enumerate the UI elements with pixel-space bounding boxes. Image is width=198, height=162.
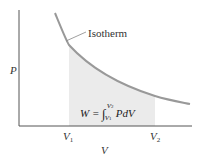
v1-sub: 1 — [70, 136, 74, 144]
isotherm-leader-line — [66, 32, 86, 41]
isotherm-label: Isotherm — [88, 28, 127, 39]
x-tick-v1: V1 — [63, 131, 73, 144]
v2-base: V — [150, 130, 157, 142]
pv-diagram — [0, 0, 198, 162]
x-tick-v2: V2 — [150, 131, 160, 144]
lower-limit: V1 — [105, 114, 112, 122]
upper-limit: V2 — [107, 102, 114, 110]
integral-limits: V2V1 — [106, 107, 116, 121]
work-integral-formula: W = ∫V2V1PdV — [80, 105, 135, 121]
formula-lhs: W = — [80, 107, 99, 119]
integrand: PdV — [116, 107, 135, 119]
v2-sub: 2 — [157, 136, 161, 144]
y-axis-label: P — [10, 65, 17, 76]
x-axis-label: V — [101, 145, 108, 156]
v1-base: V — [63, 130, 70, 142]
